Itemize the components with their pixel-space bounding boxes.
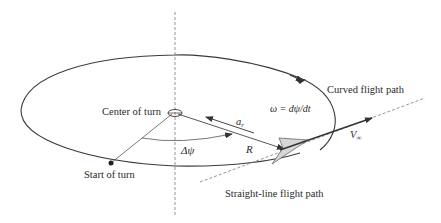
straight-line-flight-path-label: Straight-line flight path bbox=[225, 188, 324, 199]
start-of-turn-label: Start of turn bbox=[84, 169, 135, 180]
curved-flight-path-label: Curved flight path bbox=[327, 84, 405, 95]
heading-change-arc bbox=[142, 134, 232, 141]
radial-acceleration-arrow bbox=[206, 117, 254, 133]
center-of-turn-marker bbox=[168, 110, 182, 117]
angular-velocity-label: ω = dψ/dt bbox=[270, 103, 311, 114]
radial-acceleration-subscript: r bbox=[241, 121, 244, 129]
straight-line-flight-path bbox=[200, 98, 425, 182]
heading-change-label: Δψ bbox=[180, 144, 194, 156]
center-of-turn-label: Center of turn bbox=[102, 106, 162, 117]
freestream-velocity-subscript: ∞ bbox=[356, 134, 361, 142]
radius-to-start-line bbox=[111, 114, 172, 163]
level-turn-diagram: Center of turn Start of turn Curved flig… bbox=[0, 0, 441, 223]
freestream-velocity-label: V∞ bbox=[350, 129, 361, 142]
start-of-turn-point bbox=[109, 161, 114, 166]
radius-label: R bbox=[245, 143, 253, 155]
